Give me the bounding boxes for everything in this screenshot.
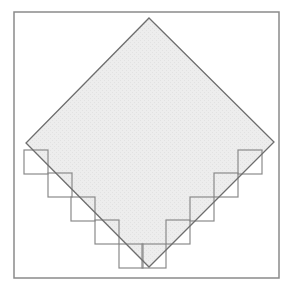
diagram-canvas <box>0 0 294 293</box>
diamond-shape <box>26 18 274 267</box>
